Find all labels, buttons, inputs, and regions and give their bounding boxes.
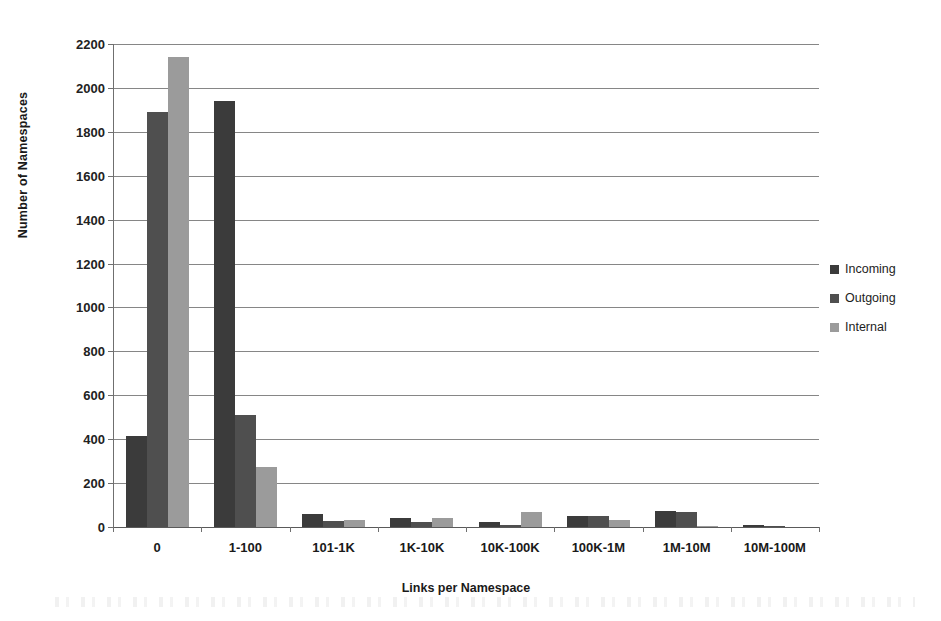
y-tick-label: 200 xyxy=(45,476,105,491)
y-tick-label: 400 xyxy=(45,432,105,447)
bar-internal xyxy=(168,57,189,527)
y-axis-tick-labels: 0200400600800100012001400160018002000220… xyxy=(45,44,105,527)
bar-group xyxy=(554,44,642,527)
bar-group xyxy=(290,44,378,527)
y-tick-mark xyxy=(108,44,113,45)
bar-internal xyxy=(521,512,542,527)
legend-swatch-icon xyxy=(830,323,839,332)
bars-layer xyxy=(113,44,819,527)
x-tick-mark xyxy=(113,527,114,532)
y-tick-mark xyxy=(108,483,113,484)
legend-swatch-icon xyxy=(830,265,839,274)
bar-outgoing xyxy=(147,112,168,527)
bar-incoming xyxy=(479,522,500,527)
x-tick-mark xyxy=(466,527,467,532)
y-tick-label: 2000 xyxy=(45,80,105,95)
bar-internal xyxy=(344,520,365,527)
bar-incoming xyxy=(743,525,764,527)
x-tick-mark xyxy=(643,527,644,532)
bar-outgoing xyxy=(588,516,609,527)
chart-legend: IncomingOutgoingInternal xyxy=(830,262,935,349)
legend-swatch-icon xyxy=(830,294,839,303)
y-tick-mark xyxy=(108,220,113,221)
bar-outgoing xyxy=(323,521,344,527)
bar-incoming xyxy=(655,511,676,527)
bar-incoming xyxy=(302,514,323,527)
x-tick-mark xyxy=(378,527,379,532)
y-tick-label: 0 xyxy=(45,520,105,535)
bar-incoming xyxy=(214,101,235,527)
scan-artifact xyxy=(55,597,915,607)
x-tick-mark xyxy=(819,527,820,532)
bar-internal xyxy=(256,467,277,527)
bar-group xyxy=(731,44,819,527)
y-tick-mark xyxy=(108,307,113,308)
bar-outgoing xyxy=(676,512,697,527)
y-tick-mark xyxy=(108,439,113,440)
legend-item: Incoming xyxy=(830,262,935,276)
y-tick-label: 1200 xyxy=(45,256,105,271)
bar-group xyxy=(113,44,201,527)
y-tick-label: 1400 xyxy=(45,212,105,227)
x-tick-mark xyxy=(290,527,291,532)
x-tick-mark xyxy=(201,527,202,532)
bar-outgoing xyxy=(235,415,256,527)
plot-area xyxy=(113,44,819,527)
bar-chart: Number of Namespaces 0200400600800100012… xyxy=(0,0,941,621)
bar-group xyxy=(378,44,466,527)
bar-internal xyxy=(432,518,453,527)
y-tick-label: 1600 xyxy=(45,168,105,183)
y-tick-mark xyxy=(108,132,113,133)
y-tick-mark xyxy=(108,88,113,89)
y-tick-label: 1800 xyxy=(45,124,105,139)
y-tick-label: 800 xyxy=(45,344,105,359)
x-axis-title: Links per Namespace xyxy=(113,581,819,595)
legend-label: Internal xyxy=(845,320,887,334)
bar-group xyxy=(466,44,554,527)
bar-incoming xyxy=(390,518,411,527)
bar-incoming xyxy=(567,516,588,527)
x-tick-label: 10M-100M xyxy=(715,540,835,555)
legend-item: Internal xyxy=(830,320,935,334)
legend-label: Outgoing xyxy=(845,291,896,305)
y-tick-label: 2200 xyxy=(45,37,105,52)
y-tick-label: 600 xyxy=(45,388,105,403)
bar-group xyxy=(201,44,289,527)
x-tick-mark xyxy=(731,527,732,532)
y-tick-mark xyxy=(108,395,113,396)
bar-outgoing xyxy=(411,522,432,527)
legend-item: Outgoing xyxy=(830,291,935,305)
bar-internal xyxy=(697,526,718,527)
y-tick-label: 1000 xyxy=(45,300,105,315)
bar-outgoing xyxy=(764,526,785,527)
x-tick-mark xyxy=(554,527,555,532)
y-tick-mark xyxy=(108,351,113,352)
legend-label: Incoming xyxy=(845,262,896,276)
y-tick-mark xyxy=(108,176,113,177)
y-axis-title: Number of Namespaces xyxy=(16,45,30,285)
bar-group xyxy=(643,44,731,527)
bar-incoming xyxy=(126,436,147,527)
y-tick-mark xyxy=(108,264,113,265)
bar-outgoing xyxy=(500,525,521,527)
bar-internal xyxy=(609,520,630,527)
